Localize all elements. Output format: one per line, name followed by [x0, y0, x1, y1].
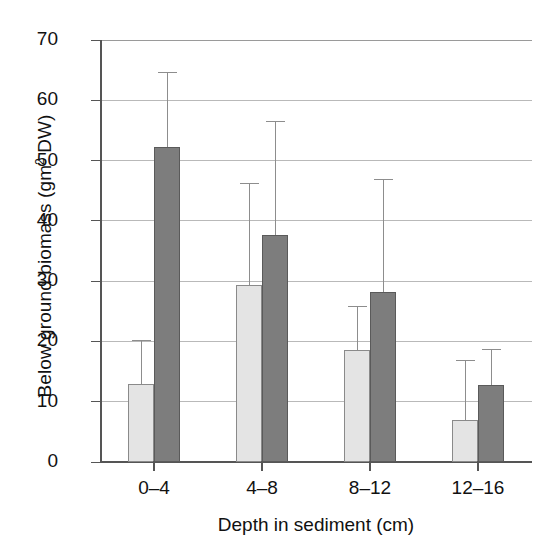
y-axis-tick	[91, 160, 100, 161]
bar-light-series-3	[452, 420, 478, 462]
error-bar-stem	[383, 179, 384, 292]
x-axis-tick-label: 0–4	[94, 477, 214, 499]
error-bar-cap	[456, 360, 475, 361]
y-axis-tick-label: 60	[0, 88, 58, 110]
bar-dark-series-0	[154, 147, 180, 462]
y-axis-tick	[91, 220, 100, 221]
x-axis-tick	[153, 461, 155, 471]
y-axis-tick-label: 10	[0, 390, 58, 412]
plot-area: 010203040506070 0–44–88–1212–16	[100, 40, 532, 462]
bar-dark-series-3	[478, 385, 504, 462]
x-axis-title: Depth in sediment (cm)	[100, 514, 532, 536]
y-axis-tick-label: 50	[0, 149, 58, 171]
bar-dark-series-1	[262, 235, 288, 462]
y-axis-line	[100, 40, 102, 462]
x-axis-tick	[369, 461, 371, 471]
x-axis-tick-label: 4–8	[202, 477, 322, 499]
error-bar-cap	[132, 340, 151, 341]
bar-light-series-2	[344, 350, 370, 462]
error-bar-stem	[167, 72, 168, 147]
gridline	[102, 40, 532, 41]
x-axis-tick-label: 8–12	[310, 477, 430, 499]
error-bar-cap	[158, 72, 177, 73]
error-bar-stem	[357, 306, 358, 350]
y-axis-tick-label: 70	[0, 28, 58, 50]
error-bar-stem	[275, 121, 276, 234]
error-bar-cap	[482, 349, 501, 350]
y-axis-tick	[91, 40, 100, 41]
x-axis-tick	[477, 461, 479, 471]
bar-light-series-0	[128, 384, 154, 462]
x-axis-tick	[261, 461, 263, 471]
bar-dark-series-2	[370, 292, 396, 462]
chart-figure: Below ground biomass (gm2 DW) 0102030405…	[0, 0, 551, 553]
y-axis-tick	[91, 100, 100, 101]
error-bar-stem	[249, 183, 250, 285]
y-axis-tick-label: 30	[0, 269, 58, 291]
y-axis-tick-label: 0	[0, 450, 58, 472]
error-bar-cap	[266, 121, 285, 122]
y-axis-tick	[91, 462, 100, 463]
error-bar-cap	[374, 179, 393, 180]
y-axis-tick	[91, 281, 100, 282]
y-axis-tick-label: 20	[0, 329, 58, 351]
y-axis-tick	[91, 401, 100, 402]
bar-light-series-1	[236, 285, 262, 462]
error-bar-stem	[465, 360, 466, 420]
error-bar-stem	[491, 349, 492, 385]
error-bar-cap	[240, 183, 259, 184]
y-axis-tick-label: 40	[0, 209, 58, 231]
y-axis-tick	[91, 341, 100, 342]
error-bar-stem	[141, 340, 142, 384]
error-bar-cap	[348, 306, 367, 307]
x-axis-tick-label: 12–16	[418, 477, 538, 499]
